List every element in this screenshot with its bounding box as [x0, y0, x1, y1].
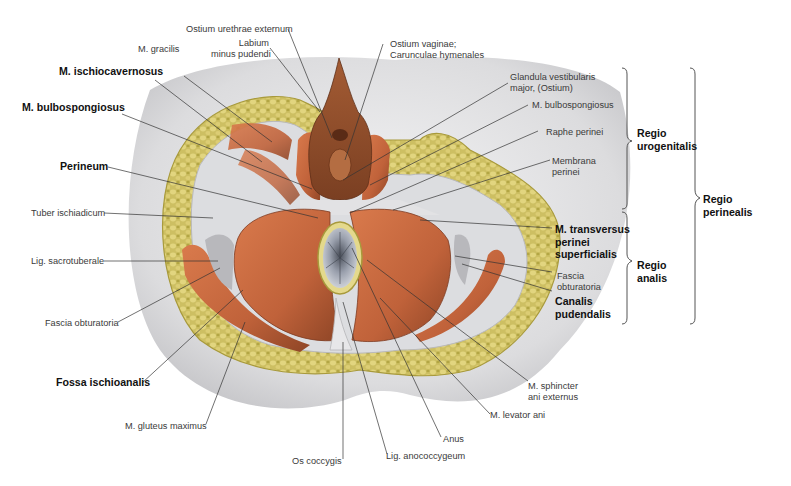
label-m-ischiocavernosus: M. ischiocavernosus	[59, 65, 163, 78]
label-m-gracilis: M. gracilis	[138, 44, 179, 55]
label-tuber-ischiadicum: Tuber ischiadicum	[31, 208, 105, 219]
label-os-coccygis: Os coccygis	[292, 456, 342, 467]
label-ostium-vaginae: Ostium vaginae; Carunculae hymenales	[390, 39, 484, 61]
label-m-levator-ani: M. levator ani	[490, 410, 545, 421]
label-m-gluteus-maximus: M. gluteus maximus	[125, 421, 207, 432]
label-lig-sacrotuberale: Lig. sacrotuberale	[31, 256, 104, 267]
label-canalis-pudendalis: Canalis pudendalis	[555, 295, 611, 320]
label-m-transversus-perinei: M. transversus perinei superficialis	[555, 223, 630, 261]
label-fossa-ischioanalis: Fossa ischioanalis	[56, 376, 150, 389]
label-membrana-perinei: Membrana perinei	[552, 156, 596, 178]
label-m-bulbospongiosus-left: M. bulbospongiosus	[22, 101, 125, 114]
label-fascia-obturatoria-right: Fascia obturatoria	[557, 271, 601, 293]
label-glandula-vestibularis: Glandula vestibularis major, (Ostium)	[510, 72, 595, 94]
label-raphe-perinei: Raphe perinei	[546, 127, 603, 138]
label-ostium-urethrae: Ostium urethrae externum	[186, 24, 293, 35]
label-labium-minus: Labium minus pudendi	[211, 38, 269, 60]
label-anus: Anus	[443, 434, 464, 445]
label-lig-anococcygeum: Lig. anococcygeum	[386, 451, 465, 462]
label-m-bulbospongiosus-right: M. bulbospongiosus	[532, 100, 614, 111]
label-m-sphincter-ani: M. sphincter ani externus	[528, 381, 578, 403]
perineum-diagram: M. gracilis M. ischiocavernosus M. bulbo…	[0, 0, 791, 486]
label-fascia-obturatoria-left: Fascia obturatoria	[45, 318, 119, 329]
label-regio-analis: Regio analis	[637, 259, 667, 284]
label-regio-urogenitalis: Regio urogenitalis	[637, 127, 697, 152]
label-perineum: Perineum	[60, 160, 108, 173]
label-regio-perinealis: Regio perinealis	[703, 193, 752, 218]
